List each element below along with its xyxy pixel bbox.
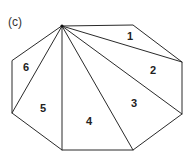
panel-label: (c) [8, 15, 22, 29]
diagonal-to-v6 [12, 26, 62, 113]
apex-vertex [60, 24, 63, 27]
region-label-4: 4 [86, 115, 93, 127]
region-label-6: 6 [23, 61, 29, 73]
region-label-3: 3 [131, 97, 137, 109]
region-label-1: 1 [127, 30, 133, 42]
region-label-5: 5 [40, 102, 46, 114]
region-labels: 1 2 3 4 5 6 [23, 30, 156, 127]
triangulation-diagram: (c) 1 2 3 4 5 6 [0, 0, 195, 159]
diagonal-to-v3 [62, 26, 182, 114]
region-label-2: 2 [150, 64, 156, 76]
